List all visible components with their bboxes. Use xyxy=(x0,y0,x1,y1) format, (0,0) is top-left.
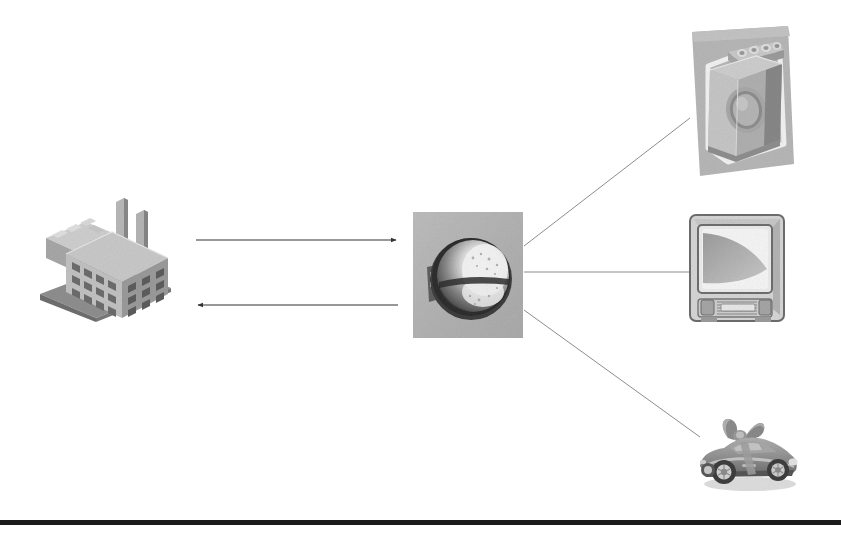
node-sports-car[interactable] xyxy=(694,408,802,496)
node-steel-component[interactable] xyxy=(413,212,523,338)
connector-component-to-sports-car xyxy=(524,310,700,437)
node-factory[interactable] xyxy=(38,196,173,322)
bottom-rule xyxy=(0,520,841,525)
factory-icon xyxy=(38,196,173,322)
diagram-canvas xyxy=(0,0,841,538)
node-washing-machine[interactable] xyxy=(684,26,796,176)
sports-car-icon xyxy=(694,408,802,496)
connector-component-to-washing-machine xyxy=(524,118,690,246)
steel-bearing-icon xyxy=(413,212,523,338)
node-television[interactable] xyxy=(687,211,791,327)
crt-television-icon xyxy=(687,211,791,327)
washing-machine-icon xyxy=(684,26,796,176)
